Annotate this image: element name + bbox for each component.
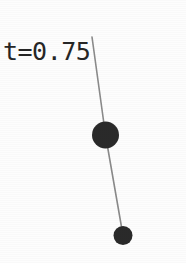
pendulum-bob-1	[92, 122, 119, 149]
double-pendulum-figure: t=0.75	[0, 0, 186, 263]
time-label: t=0.75	[3, 39, 90, 64]
pendulum-bob-2	[114, 226, 133, 245]
